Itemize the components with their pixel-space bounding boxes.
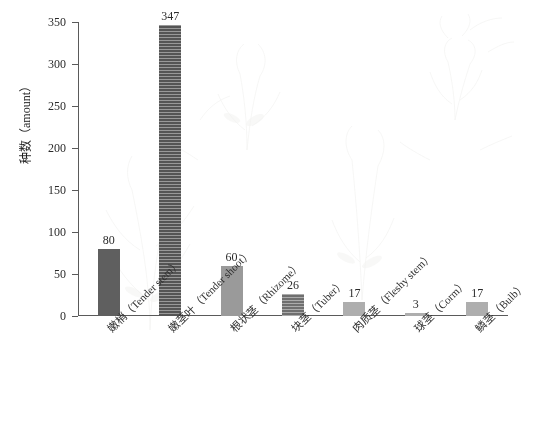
bar-value-label: 80 (85, 234, 133, 246)
y-axis-tick-label: 0 (32, 310, 66, 322)
y-axis-tick-label: 350 (32, 16, 66, 28)
bar[interactable] (98, 249, 120, 316)
y-axis-tick (72, 274, 78, 275)
y-axis-tick (72, 106, 78, 107)
bar-value-label: 347 (146, 10, 194, 22)
y-axis-tick-label: 150 (32, 184, 66, 196)
y-axis-tick-label: 300 (32, 58, 66, 70)
y-axis-tick-label: 50 (32, 268, 66, 280)
y-axis-tick-label: 250 (32, 100, 66, 112)
y-axis-tick (72, 22, 78, 23)
y-axis-tick (72, 64, 78, 65)
y-axis-tick-label: 200 (32, 142, 66, 154)
y-axis-tick (72, 190, 78, 191)
y-axis-line (78, 22, 79, 316)
y-axis-tick (72, 316, 78, 317)
y-axis-tick (72, 232, 78, 233)
bar-chart-figure: 种数（amount） 050100150200250300350 8034760… (0, 0, 548, 428)
y-axis-tick-label: 100 (32, 226, 66, 238)
y-axis-tick (72, 148, 78, 149)
